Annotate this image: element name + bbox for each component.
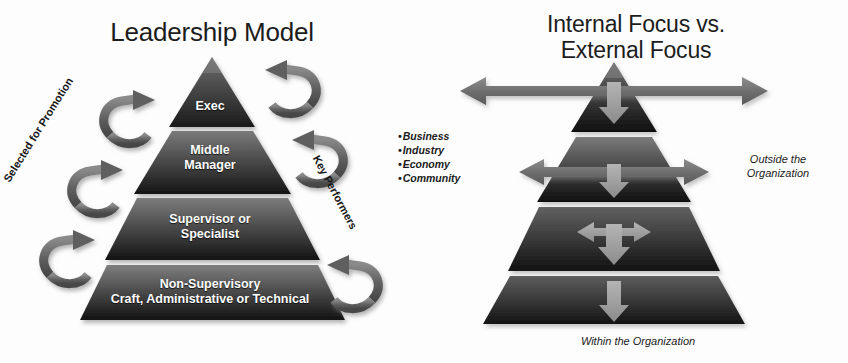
list-item: •Business [398,130,494,144]
list-item: •Economy [398,158,494,172]
list-item: •Industry [398,144,494,158]
promotion-loop-arrow-2 [72,160,123,214]
key-performers-loop-arrow-3 [327,255,378,309]
list-item-label: Community [403,172,461,184]
note-outside-the-organization: Outside the Organization [718,152,838,181]
list-item: •Community [398,172,494,186]
note-outside-line1: Outside the [718,152,838,166]
leadership-pyramid-graphic [0,0,424,363]
figure-canvas: Leadership Model [0,0,848,363]
pyramid-tier-non-supervisory[interactable] [80,265,345,320]
pyramid-tier-supervisor[interactable] [105,198,320,260]
promotion-loop-arrow-3 [44,230,95,284]
external-factors-list: •Business •Industry •Economy •Community [398,130,494,185]
pyramid-tier-exec[interactable] [169,57,255,127]
key-performers-loop-arrow-1 [265,60,316,114]
list-item-label: Industry [403,144,444,156]
bullet-icon: • [398,130,402,142]
promotion-loop-arrow-1 [104,90,155,144]
note-outside-line2: Organization [718,166,838,180]
note-within-the-organization: Within the Organization [538,334,738,348]
bullet-icon: • [398,144,402,156]
pyramid-tier-middle-manager[interactable] [134,131,291,194]
list-item-label: Business [403,130,450,142]
list-item-label: Economy [403,158,450,170]
leadership-model-panel: Leadership Model [0,0,424,363]
bullet-icon: • [398,158,402,170]
bullet-icon: • [398,172,402,184]
